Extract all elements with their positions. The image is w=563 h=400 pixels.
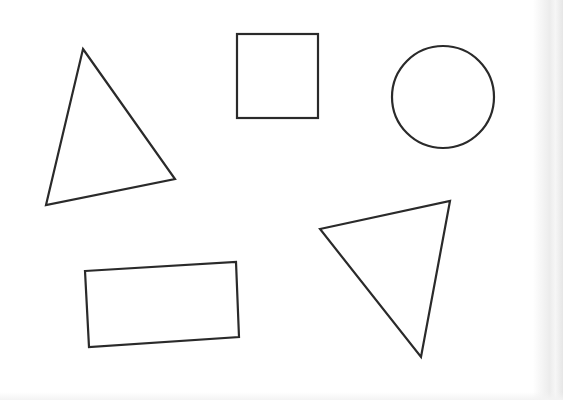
- rectangle-tilted: [85, 262, 239, 347]
- page-edge-shadow: [533, 0, 563, 400]
- shapes-canvas: [0, 0, 563, 400]
- page-bottom-fade: [0, 392, 563, 400]
- triangle-upper-left: [46, 49, 175, 205]
- triangle-lower-right: [320, 201, 450, 357]
- circle: [392, 46, 494, 148]
- square: [237, 34, 318, 118]
